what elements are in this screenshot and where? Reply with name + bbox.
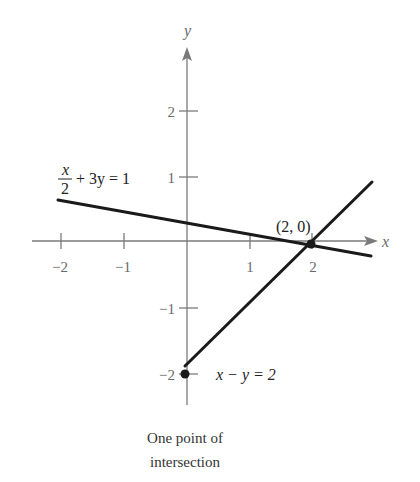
y-ticks: [179, 111, 198, 374]
svg-text:x: x: [61, 161, 69, 178]
x-tick-label: −1: [115, 259, 131, 275]
equation-label-1: x 2 + 3y = 1: [58, 161, 130, 197]
x-tick-label: −2: [52, 259, 68, 275]
x-axis-label: x: [381, 233, 389, 250]
line-x-minus-y-eq-2: [185, 182, 372, 366]
x-tick-label: 1: [246, 259, 254, 275]
y-tick-label: −2: [159, 367, 175, 383]
y-intercept-point: [181, 370, 190, 379]
x-tick-label: 2: [309, 259, 317, 275]
y-tick-label: 2: [168, 104, 176, 120]
intersection-point: [307, 240, 316, 249]
y-tick-label: 1: [168, 170, 176, 186]
caption-line-2: intersection: [150, 454, 220, 470]
y-tick-labels: 2 1 −1 −2: [159, 104, 175, 383]
y-axis-label: y: [182, 22, 192, 40]
caption-line-1: One point of: [147, 430, 223, 446]
svg-text:2: 2: [61, 180, 69, 197]
intersection-label: (2, 0): [276, 218, 311, 236]
caption: One point of intersection: [147, 430, 223, 470]
svg-text:+ 3y = 1: + 3y = 1: [76, 170, 130, 188]
x-tick-labels: −2 −1 1 2: [52, 259, 317, 275]
y-tick-label: −1: [159, 301, 175, 317]
equation-label-2: x − y = 2: [215, 366, 276, 384]
chart-canvas: −2 −1 1 2 2 1 −1 −2 x y x 2 + 3y = 1 x −…: [0, 0, 420, 482]
